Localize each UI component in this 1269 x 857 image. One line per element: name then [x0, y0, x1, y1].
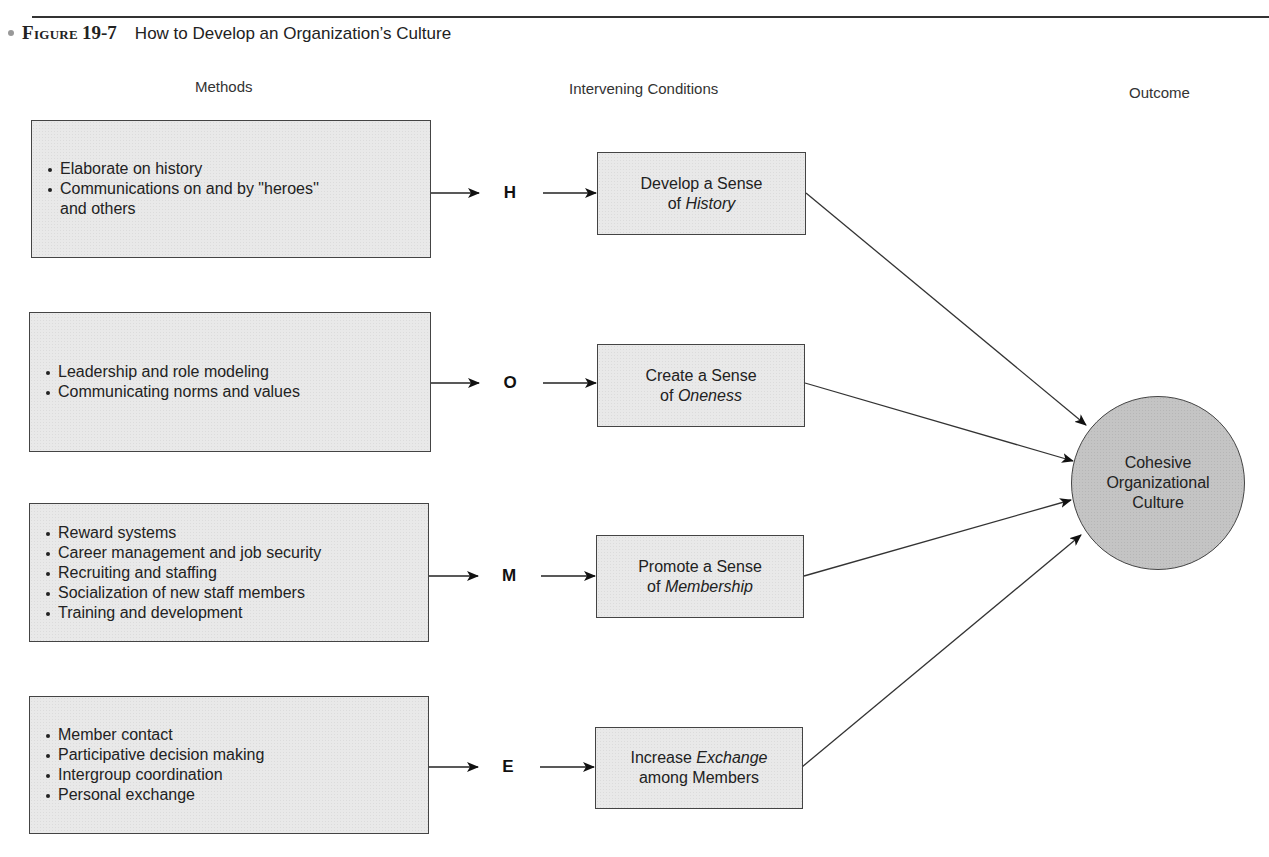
- method-item: Reward systems: [44, 523, 420, 543]
- method-item: Recruiting and staffing: [44, 563, 420, 583]
- arrow-exchange-to-outcome: [802, 535, 1081, 767]
- arrow-history-to-outcome: [806, 193, 1086, 425]
- outcome-line: Cohesive: [1125, 454, 1192, 471]
- method-item: Socialization of new staff members: [44, 583, 420, 603]
- method-item: Leadership and role modeling: [44, 362, 422, 382]
- method-item: Member contact: [44, 725, 420, 745]
- methods-box-exchange: Member contact Participative decision ma…: [29, 696, 429, 834]
- methods-box-membership: Reward systems Career management and job…: [29, 503, 429, 642]
- method-item: Training and development: [44, 603, 420, 623]
- outcome-line: Organizational: [1106, 474, 1209, 491]
- method-item: Communicating norms and values: [44, 382, 422, 402]
- condition-box-history: Develop a Sense of History: [597, 152, 806, 235]
- letter-h: H: [495, 183, 525, 203]
- method-item: Elaborate on history: [46, 159, 422, 179]
- condition-box-oneness: Create a Sense of Oneness: [597, 344, 805, 427]
- method-item: Communications on and by "heroes''and ot…: [46, 179, 422, 219]
- methods-box-oneness: Leadership and role modeling Communicati…: [29, 312, 431, 452]
- outcome-line: Culture: [1132, 494, 1184, 511]
- arrow-membership-to-outcome: [804, 500, 1071, 576]
- method-item: Personal exchange: [44, 785, 420, 805]
- letter-e: E: [493, 757, 523, 777]
- arrow-oneness-to-outcome: [805, 383, 1073, 461]
- condition-box-membership: Promote a Sense of Membership: [596, 535, 804, 618]
- method-item: Career management and job security: [44, 543, 420, 563]
- letter-o: O: [495, 373, 525, 393]
- condition-box-exchange: Increase Exchange among Members: [595, 727, 803, 809]
- methods-box-history: Elaborate on history Communications on a…: [31, 120, 431, 258]
- outcome-circle: Cohesive Organizational Culture: [1071, 396, 1245, 570]
- letter-m: M: [494, 566, 524, 586]
- method-item: Intergroup coordination: [44, 765, 420, 785]
- method-item: Participative decision making: [44, 745, 420, 765]
